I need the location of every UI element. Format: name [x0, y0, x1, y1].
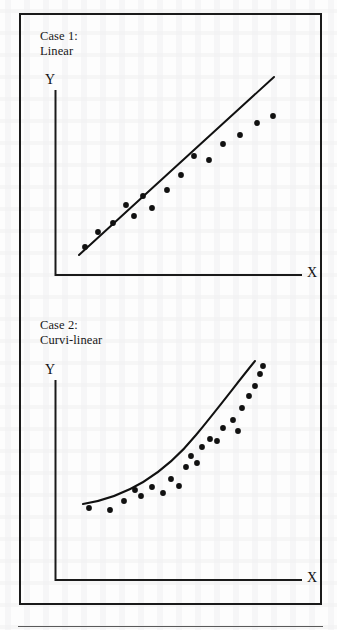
data-point	[220, 425, 226, 431]
data-point	[149, 484, 155, 490]
figure-case-2-x-axis-label: X	[307, 570, 317, 586]
data-point	[132, 487, 138, 493]
data-point	[178, 172, 184, 178]
data-point	[235, 428, 241, 434]
data-point	[254, 120, 260, 126]
data-point	[230, 417, 236, 423]
figure-case-2-plot	[21, 305, 324, 605]
page-bottom-rule	[18, 626, 323, 627]
data-point	[149, 205, 155, 211]
data-point	[95, 229, 101, 235]
data-point	[82, 244, 88, 250]
data-point	[246, 393, 252, 399]
data-point	[86, 505, 92, 511]
figure-case-1-plot	[21, 15, 324, 315]
scanned-page: Case 1: Linear	[0, 0, 337, 630]
data-point	[160, 490, 166, 496]
data-point	[107, 507, 113, 513]
data-point	[123, 202, 129, 208]
curvilinear-fit-curve	[83, 361, 255, 504]
data-point	[199, 444, 205, 450]
data-point	[131, 213, 137, 219]
data-point	[188, 453, 194, 459]
data-point	[239, 405, 245, 411]
figure-case-1-y-axis-label: Y	[45, 72, 55, 88]
figure-case-1-x-axis-label: X	[307, 265, 317, 281]
data-point	[140, 193, 146, 199]
linear-fit-line	[79, 77, 274, 255]
data-point	[168, 476, 174, 482]
data-point	[110, 220, 116, 226]
data-point	[257, 371, 263, 377]
data-point	[176, 483, 182, 489]
data-point	[260, 363, 266, 369]
data-point	[121, 498, 127, 504]
data-point	[252, 383, 258, 389]
data-point	[164, 187, 170, 193]
data-point-group	[86, 363, 266, 513]
data-point	[270, 113, 276, 119]
figure-case-2-y-axis-label: Y	[45, 362, 55, 378]
figure-case-1: Case 1: Linear	[21, 15, 324, 311]
figure-frame: Case 1: Linear	[19, 13, 322, 605]
data-point	[214, 438, 220, 444]
data-point	[220, 141, 226, 147]
data-point-group	[82, 113, 276, 250]
scatter-plot-linear	[21, 15, 324, 315]
scatter-plot-curvilinear	[21, 305, 324, 605]
data-point	[183, 464, 189, 470]
data-point	[194, 460, 200, 466]
data-point	[191, 153, 197, 159]
figure-case-2: Case 2: Curvi-linear	[21, 305, 324, 605]
data-point	[207, 436, 213, 442]
data-point	[237, 132, 243, 138]
data-point	[206, 157, 212, 163]
data-point	[138, 493, 144, 499]
